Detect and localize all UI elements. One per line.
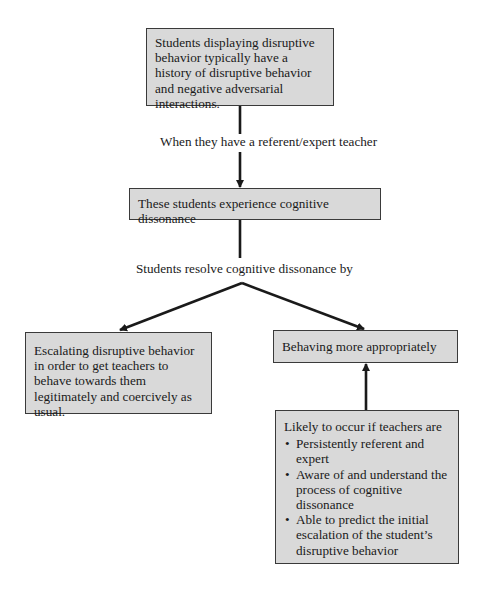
history-box: Students displaying disruptive behavior …	[146, 28, 334, 106]
condition-item: Persistently referent and expert	[284, 436, 452, 466]
appropriate-text: Behaving more appropriately	[282, 339, 437, 354]
appropriate-box: Behaving more appropriately	[273, 330, 458, 363]
condition-item: Able to predict the initial escalation o…	[284, 512, 452, 558]
edge-label-resolve-by: Students resolve cognitive dissonance by	[136, 261, 353, 276]
condition-item: Aware of and understand the process of c…	[284, 467, 452, 513]
edge-label-when-referent: When they have a referent/expert teacher	[160, 134, 377, 149]
conditions-list: Persistently referent and expert Aware o…	[284, 436, 452, 558]
conditions-heading: Likely to occur if teachers are	[284, 419, 452, 434]
arrow-right-branch	[242, 283, 364, 329]
arrow-left-branch	[120, 283, 242, 330]
dissonance-box: These students experience cognitive diss…	[129, 188, 381, 220]
escalating-text: Escalating disruptive behavior in order …	[34, 343, 194, 419]
escalating-box: Escalating disruptive behavior in order …	[25, 332, 212, 414]
conditions-box: Likely to occur if teachers are Persiste…	[275, 410, 459, 564]
history-text: Students displaying disruptive behavior …	[155, 35, 315, 111]
